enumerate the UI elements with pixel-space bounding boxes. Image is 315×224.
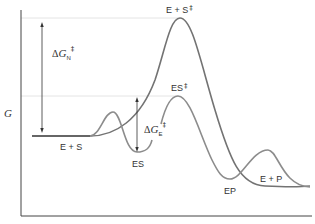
label-e-plus-p: E + P	[260, 174, 282, 184]
catalyzed-curve-part1	[32, 112, 152, 152]
uncatalyzed-curve	[32, 18, 310, 187]
label-ts-catalyzed: ES‡	[171, 82, 188, 93]
arrow-down-icon	[40, 128, 43, 133]
delta-ge-label: ΔGE‡	[144, 121, 166, 137]
catalyzed-curve-part2	[161, 96, 310, 187]
arrow-up-icon	[40, 22, 43, 27]
delta-gn-label: ΔGN‡	[52, 45, 75, 61]
label-ts-uncatalyzed: E + S‡	[166, 4, 193, 15]
label-ep-complex: EP	[224, 186, 236, 196]
energy-diagram: G ΔGN‡ ΔGE‡ E + S E + S‡ ES‡ ES EP E + P	[0, 0, 315, 224]
label-e-plus-s-start: E + S	[60, 142, 82, 152]
arrow-up-icon	[135, 97, 138, 102]
y-axis-label: G	[4, 107, 12, 119]
label-es-complex: ES	[132, 159, 144, 169]
